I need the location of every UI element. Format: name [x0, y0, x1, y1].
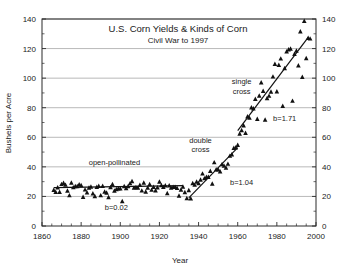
- x-tick-label: 1860: [33, 232, 51, 241]
- x-tick-label: 1960: [229, 232, 247, 241]
- annotation-double-cross: double: [189, 136, 212, 145]
- corn-yield-scatter-chart: 0020204040606080801001001201201401401860…: [0, 0, 352, 268]
- x-tick-label: 1900: [111, 232, 129, 241]
- y-tick-label-left: 60: [27, 133, 36, 142]
- y-tick-label-left: 80: [27, 104, 36, 113]
- annotation-open-pollinated: open-pollinated: [89, 158, 140, 167]
- y-tick-label-left: 20: [27, 192, 36, 201]
- x-tick-label: 1920: [151, 232, 169, 241]
- x-tick-label: 1880: [72, 232, 90, 241]
- annotation-b-double-cross: b=1.04: [230, 178, 253, 187]
- y-tick-label-left: 0: [32, 222, 37, 231]
- annotation-single-cross: single: [232, 77, 252, 86]
- chart-figure: 0020204040606080801001001201201401401860…: [0, 0, 352, 268]
- y-tick-label-right: 40: [322, 163, 331, 172]
- chart-subtitle: Civil War to 1997: [148, 36, 209, 45]
- y-tick-label-right: 120: [322, 45, 336, 54]
- y-tick-label-left: 140: [23, 15, 37, 24]
- x-tick-label: 2000: [307, 232, 325, 241]
- y-tick-label-right: 60: [322, 133, 331, 142]
- chart-title: U.S. Corn Yields & Kinds of Corn: [109, 23, 248, 34]
- annotation-double-cross-2: cross: [192, 145, 210, 154]
- y-tick-label-right: 20: [322, 192, 331, 201]
- annotation-single-cross-2: cross: [233, 87, 251, 96]
- y-tick-label-right: 140: [322, 15, 336, 24]
- y-tick-label-right: 0: [322, 222, 327, 231]
- annotation-b-single-cross: b=1.71: [273, 114, 296, 123]
- y-tick-label-right: 100: [322, 74, 336, 83]
- y-tick-label-left: 40: [27, 163, 36, 172]
- y-tick-label-right: 80: [322, 104, 331, 113]
- x-tick-label: 1940: [190, 232, 208, 241]
- y-axis-title: Bushels per Acre: [4, 92, 13, 153]
- x-tick-label: 1980: [268, 232, 286, 241]
- y-tick-label-left: 120: [23, 45, 37, 54]
- x-axis-title: Year: [172, 256, 189, 265]
- annotation-b-open-pollinated: b=0.02: [105, 203, 128, 212]
- y-tick-label-left: 100: [23, 74, 37, 83]
